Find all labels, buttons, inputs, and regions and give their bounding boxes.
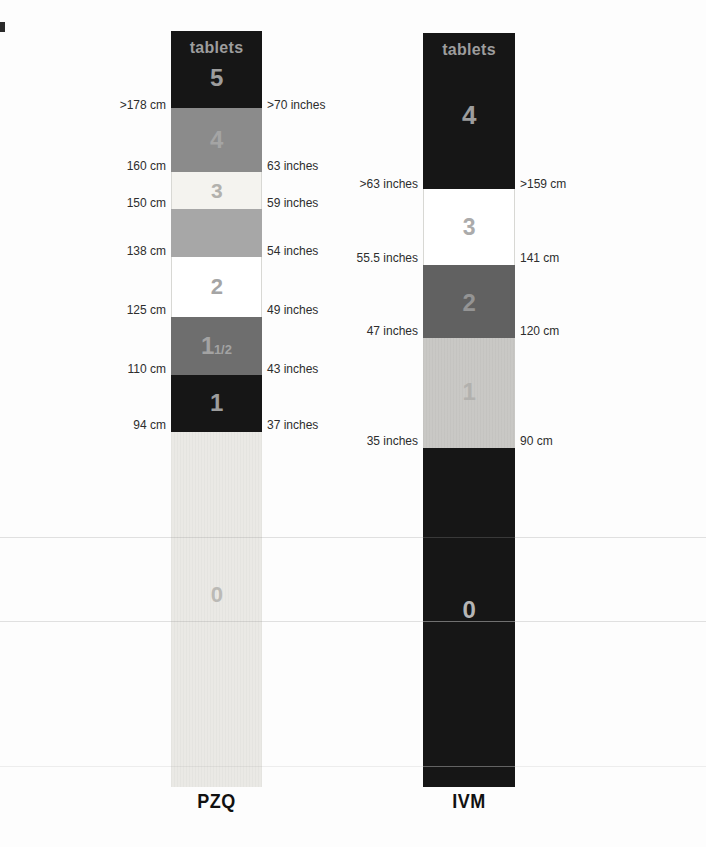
- scan-artifact-line: [423, 766, 515, 767]
- scan-artifact-line: [0, 537, 706, 538]
- dose-pole-figure: tablets 5 4 3 2 11/2 1: [0, 0, 706, 847]
- pzq-drug-label: PZQ: [176, 790, 258, 812]
- pzq-marker-cm-138: 138 cm: [40, 244, 166, 258]
- pzq-digit-1half: 11/2: [171, 334, 262, 362]
- pzq-band-1: 1: [171, 375, 262, 432]
- ivm-marker-cm-159: >159 cm: [520, 177, 566, 191]
- pzq-band-2: 2: [171, 257, 262, 317]
- pzq-marker-cm-125: 125 cm: [40, 303, 166, 317]
- ivm-band-4: tablets 4: [423, 33, 515, 189]
- pzq-digit-3: 3: [171, 179, 262, 203]
- ivm-marker-cm-120: 120 cm: [520, 324, 559, 338]
- pzq-tablets-header: tablets: [171, 39, 262, 57]
- ivm-pole: tablets 4 3 2 1 0: [423, 33, 515, 787]
- pzq-digit-1half-fraction: 1/2: [214, 342, 232, 357]
- pzq-marker-in-63: 63 inches: [267, 159, 318, 173]
- ivm-digit-1: 1: [423, 380, 515, 404]
- ivm-band-0: 0: [423, 448, 515, 787]
- pzq-marker-cm-150: 150 cm: [40, 196, 166, 210]
- ivm-marker-in-55-5: 55.5 inches: [280, 251, 418, 265]
- ivm-tablets-header: tablets: [423, 41, 515, 59]
- pzq-digit-0: 0: [171, 583, 262, 607]
- pzq-digit-1: 1: [171, 391, 262, 415]
- pzq-pole: tablets 5 4 3 2 11/2 1: [171, 31, 262, 787]
- ivm-marker-cm-141: 141 cm: [520, 251, 559, 265]
- ivm-marker-in-63: >63 inches: [280, 177, 418, 191]
- ivm-band-3: 3: [423, 189, 515, 265]
- ivm-marker-cm-90: 90 cm: [520, 434, 553, 448]
- pzq-band-1half: 11/2: [171, 317, 262, 375]
- pzq-band-4: 4: [171, 108, 262, 172]
- ivm-digit-3: 3: [423, 215, 515, 239]
- ivm-digit-0: 0: [423, 598, 515, 622]
- pzq-band-3: 3: [171, 172, 262, 209]
- pzq-marker-cm-178: >178 cm: [40, 98, 166, 112]
- pzq-marker-in-59: 59 inches: [267, 196, 318, 210]
- pzq-band-0: 0: [171, 432, 262, 787]
- ivm-digit-2: 2: [423, 291, 515, 315]
- scan-edge-mark: [0, 22, 5, 32]
- ivm-marker-in-35: 35 inches: [280, 434, 418, 448]
- pzq-marker-in-37: 37 inches: [267, 418, 318, 432]
- scan-artifact-line: [423, 621, 515, 622]
- ivm-band-2: 2: [423, 265, 515, 338]
- pzq-marker-in-70: >70 inches: [267, 98, 325, 112]
- pzq-marker-cm-94: 94 cm: [40, 418, 166, 432]
- ivm-drug-label: IVM: [428, 790, 511, 812]
- pzq-marker-cm-110: 110 cm: [40, 362, 166, 376]
- ivm-band-1: 1: [423, 338, 515, 448]
- pzq-band-2half: [171, 209, 262, 257]
- ivm-marker-in-47: 47 inches: [280, 324, 418, 338]
- pzq-band-5: tablets 5: [171, 31, 262, 108]
- pzq-marker-in-49: 49 inches: [267, 303, 318, 317]
- pzq-marker-in-43: 43 inches: [267, 362, 318, 376]
- scan-artifact-line: [0, 766, 706, 767]
- scan-artifact-line: [0, 621, 706, 622]
- pzq-digit-2: 2: [171, 275, 262, 299]
- pzq-marker-cm-160: 160 cm: [40, 159, 166, 173]
- ivm-digit-4: 4: [423, 103, 515, 127]
- pzq-digit-4: 4: [171, 128, 262, 152]
- pzq-digit-5: 5: [171, 66, 262, 90]
